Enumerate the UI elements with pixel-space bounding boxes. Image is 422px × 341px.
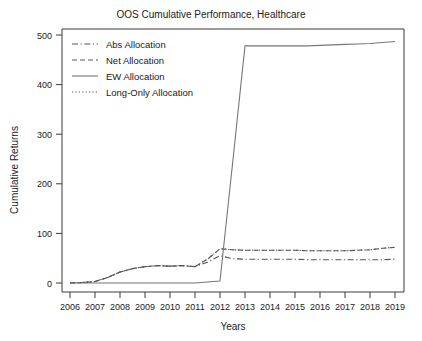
x-tick-label: 2014 <box>260 302 280 312</box>
x-tick-label: 2017 <box>335 302 355 312</box>
chart-container: OOS Cumulative Performance, Healthcare 0… <box>0 0 422 341</box>
y-tick-label: 500 <box>37 31 52 41</box>
y-axis-ticks: 0100200300400500 <box>37 31 62 289</box>
x-tick-label: 2019 <box>385 302 405 312</box>
x-tick-label: 2012 <box>210 302 230 312</box>
legend-label-long-only-allocation: Long-Only Allocation <box>106 87 193 98</box>
x-axis-label: Years <box>220 321 245 332</box>
x-tick-label: 2016 <box>310 302 330 312</box>
legend-label-abs-allocation: Abs Allocation <box>106 39 166 50</box>
legend-label-ew-allocation: EW Allocation <box>106 71 165 82</box>
legend-label-net-allocation: Net Allocation <box>106 55 164 66</box>
y-tick-label: 200 <box>37 179 52 189</box>
y-axis-label: Cumulative Returns <box>9 126 20 214</box>
x-tick-label: 2015 <box>285 302 305 312</box>
x-tick-label: 2013 <box>235 302 255 312</box>
x-tick-label: 2009 <box>135 302 155 312</box>
x-tick-label: 2018 <box>360 302 380 312</box>
y-tick-label: 400 <box>37 80 52 90</box>
x-axis-ticks: 2006200720082009201020112012201320142015… <box>60 292 405 312</box>
x-tick-label: 2006 <box>60 302 80 312</box>
y-tick-label: 0 <box>47 279 52 289</box>
series-line-net-allocation <box>70 247 395 283</box>
chart-legend: Abs AllocationNet AllocationEW Allocatio… <box>72 39 193 98</box>
y-tick-label: 300 <box>37 130 52 140</box>
x-tick-label: 2010 <box>160 302 180 312</box>
series-line-abs-allocation <box>70 256 395 283</box>
cumulative-performance-chart: OOS Cumulative Performance, Healthcare 0… <box>0 0 422 341</box>
chart-title: OOS Cumulative Performance, Healthcare <box>117 9 306 20</box>
y-tick-label: 100 <box>37 229 52 239</box>
x-tick-label: 2007 <box>85 302 105 312</box>
x-tick-label: 2011 <box>185 302 204 312</box>
series-line-long-only-allocation <box>70 247 395 283</box>
x-tick-label: 2008 <box>110 302 130 312</box>
